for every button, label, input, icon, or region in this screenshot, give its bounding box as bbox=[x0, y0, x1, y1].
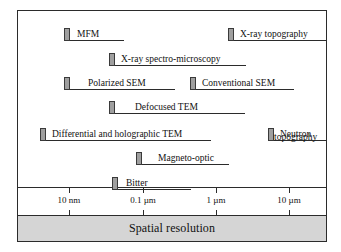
technique-label: Magneto-optic bbox=[158, 153, 214, 164]
resolution-axis: 10 nm 0.1 µm 1 µm 10 µm bbox=[18, 188, 326, 216]
technique-row: Magneto-optic bbox=[136, 143, 229, 165]
technique-label: Differential and holographic TEM bbox=[52, 129, 182, 140]
axis-tick-top bbox=[69, 188, 70, 193]
technique-row: Differential and holographic TEM bbox=[40, 119, 211, 141]
technique-row: MFM bbox=[64, 19, 124, 41]
axis-tick-label: 1 µm bbox=[207, 195, 226, 205]
axis-caption-band: Spatial resolution bbox=[18, 216, 326, 241]
range-start-marker bbox=[64, 28, 70, 41]
technique-row: X-ray topography bbox=[228, 19, 326, 41]
technique-label: Defocused TEM bbox=[135, 102, 198, 113]
axis-tick-bottom bbox=[143, 210, 144, 215]
technique-label: Polarized SEM bbox=[88, 78, 146, 89]
technique-label: X-ray spectro-microscopy bbox=[121, 54, 220, 65]
technique-label-line2: topography bbox=[274, 132, 317, 143]
axis-tick-bottom bbox=[216, 210, 217, 215]
technique-row: Neutron topography bbox=[268, 119, 326, 141]
range-start-marker bbox=[40, 128, 46, 141]
range-start-marker bbox=[228, 28, 234, 41]
range-line bbox=[64, 89, 175, 90]
axis-tick-top bbox=[143, 188, 144, 193]
range-line bbox=[190, 89, 294, 90]
axis-tick-top bbox=[289, 188, 290, 193]
range-line bbox=[64, 40, 124, 41]
range-start-marker bbox=[190, 77, 196, 90]
axis-tick-label: 0.1 µm bbox=[130, 195, 156, 205]
technique-plot-area: MFM X-ray topography X-ray spectro-micro… bbox=[18, 11, 326, 188]
axis-tick-label: 10 µm bbox=[277, 195, 300, 205]
range-start-marker bbox=[64, 77, 70, 90]
range-start-marker bbox=[109, 101, 115, 114]
technique-row: Conventional SEM bbox=[190, 68, 294, 90]
technique-label: X-ray topography bbox=[240, 29, 308, 40]
axis-tick-bottom bbox=[69, 210, 70, 215]
technique-row: Polarized SEM bbox=[64, 68, 175, 90]
figure-frame: MFM X-ray topography X-ray spectro-micro… bbox=[17, 10, 327, 242]
axis-tick-top bbox=[216, 188, 217, 193]
axis-tick-label: 10 nm bbox=[58, 195, 81, 205]
range-start-marker bbox=[109, 53, 115, 66]
axis-tick-bottom bbox=[289, 210, 290, 215]
range-line bbox=[109, 113, 245, 114]
technique-row: Defocused TEM bbox=[109, 92, 245, 114]
technique-label: MFM bbox=[77, 29, 99, 40]
technique-row: Bitter bbox=[112, 168, 191, 190]
range-line bbox=[228, 40, 326, 41]
technique-row: X-ray spectro-microscopy bbox=[109, 44, 246, 66]
range-line bbox=[136, 164, 229, 165]
technique-label: Conventional SEM bbox=[202, 78, 275, 89]
range-line bbox=[109, 65, 246, 66]
axis-caption-text: Spatial resolution bbox=[129, 221, 215, 236]
range-start-marker bbox=[136, 152, 142, 165]
range-line bbox=[40, 140, 211, 141]
